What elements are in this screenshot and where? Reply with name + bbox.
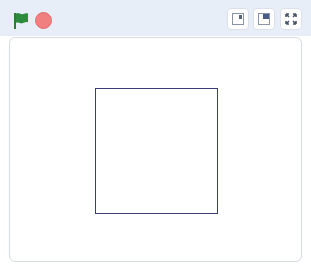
stage-canvas[interactable] (9, 37, 302, 262)
stop-button[interactable] (35, 12, 52, 29)
normal-stage-button[interactable] (253, 8, 275, 30)
small-stage-icon (232, 13, 244, 25)
stage-header (0, 0, 311, 36)
small-stage-button[interactable] (227, 8, 249, 30)
drawn-square (95, 88, 218, 214)
normal-stage-icon (258, 13, 270, 25)
green-flag-button[interactable] (11, 10, 31, 30)
fullscreen-icon (285, 13, 297, 25)
fullscreen-button[interactable] (280, 8, 302, 30)
green-flag-icon (11, 10, 31, 30)
